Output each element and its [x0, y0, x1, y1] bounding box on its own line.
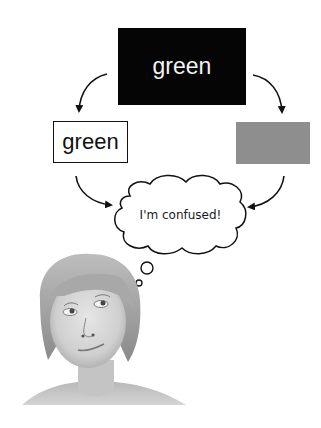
thought-text: I'm confused!	[118, 208, 243, 222]
arrow-top-to-left	[79, 74, 107, 111]
arrow-right-to-bubble	[249, 176, 284, 207]
top-color-word-box: green	[118, 28, 246, 105]
word-box: green	[53, 121, 128, 163]
left-box-label: green	[62, 129, 118, 155]
person-photo	[22, 254, 186, 405]
top-box-label: green	[153, 53, 212, 80]
color-swatch-box	[236, 122, 310, 164]
arrow-left-to-bubble	[76, 176, 111, 205]
arrow-top-to-right	[253, 75, 282, 112]
thought-bubble-large	[141, 262, 153, 274]
